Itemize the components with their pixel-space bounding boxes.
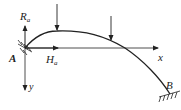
label-ha: Ha (45, 53, 58, 67)
label-a: A (8, 52, 16, 64)
label-b: B (166, 79, 173, 91)
label-y: y (28, 81, 34, 92)
label-x: x (157, 51, 163, 63)
arch-diagram: Ra A Ha y x B (0, 0, 181, 110)
label-ra: Ra (19, 10, 31, 24)
